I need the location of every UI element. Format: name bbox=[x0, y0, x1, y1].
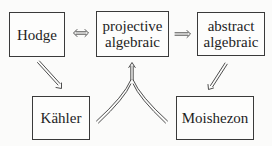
node-moishezon: Moishezon bbox=[176, 96, 254, 140]
node-label: Moishezon bbox=[182, 110, 249, 126]
implication-arrow-icon bbox=[38, 61, 62, 89]
implication-arrow-icon bbox=[208, 63, 227, 90]
node-label: Hodge bbox=[17, 27, 57, 43]
node-hodge: Hodge bbox=[9, 12, 65, 57]
merging-implication-arrow-icon bbox=[97, 63, 168, 124]
node-label: algebraic bbox=[105, 34, 160, 50]
node-label: abstract bbox=[208, 18, 255, 34]
equivalence-arrow-icon bbox=[74, 30, 89, 37]
node-label: projective bbox=[103, 18, 163, 34]
node-label: Kähler bbox=[41, 110, 82, 126]
node-projective-algebraic: projective algebraic bbox=[96, 11, 169, 57]
implication-arrow-icon bbox=[175, 31, 191, 38]
node-label: algebraic bbox=[204, 34, 259, 50]
node-abstract-algebraic: abstract algebraic bbox=[197, 12, 265, 56]
node-kahler: Kähler bbox=[32, 96, 90, 140]
diagram-canvas: Hodge projective algebraic abstract alge… bbox=[0, 0, 272, 146]
